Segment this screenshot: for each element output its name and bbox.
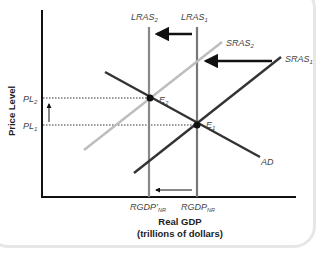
ad-label: AD — [260, 157, 274, 167]
as-ad-diagram: LRAS2 LRAS1 SRAS2 SRAS1 AD E2 E1 PL2 PL1… — [0, 0, 320, 255]
e2-label: E2 — [159, 95, 169, 106]
e2-point — [147, 95, 154, 102]
rgdp-nr-prime-label: RGDP’NR — [130, 202, 166, 213]
lras1-label: LRAS1 — [181, 12, 208, 23]
sras2-label: SRAS2 — [226, 38, 255, 49]
e1-point — [194, 122, 201, 129]
pl1-label: PL1 — [23, 121, 37, 132]
x-axis-subtitle: (trillions of dollars) — [137, 228, 223, 239]
sras2-line — [84, 42, 222, 150]
rgdp-nr-label: RGDPNR — [181, 202, 215, 213]
lras2-label: LRAS2 — [131, 12, 159, 23]
sras1-label: SRAS1 — [285, 54, 313, 65]
y-axis-title: Price Level — [6, 86, 17, 136]
e1-label: E1 — [206, 120, 215, 131]
x-axis-title: Real GDP — [158, 216, 202, 227]
pl2-label: PL2 — [23, 94, 38, 105]
